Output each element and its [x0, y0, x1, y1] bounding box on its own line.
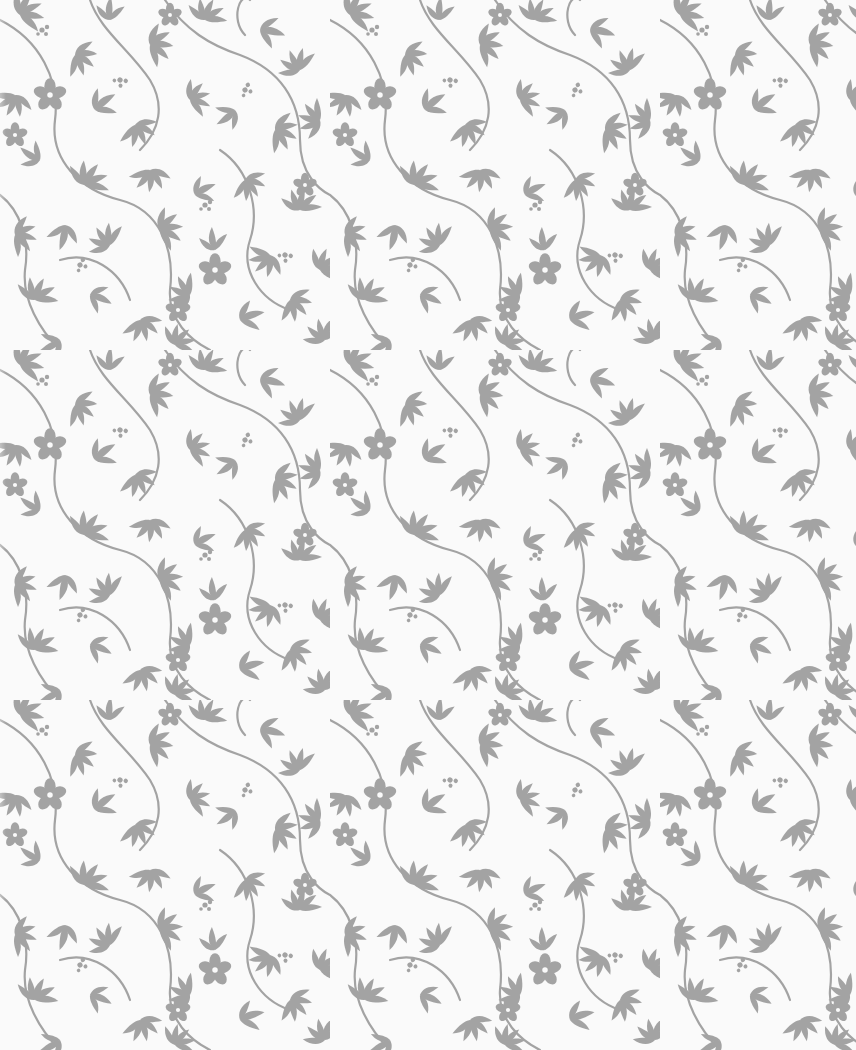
- floral-wallpaper: [0, 0, 856, 1050]
- floral-pattern: [0, 0, 856, 1050]
